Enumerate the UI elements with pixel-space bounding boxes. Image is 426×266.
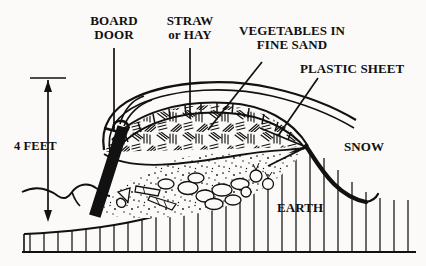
potato-5 [188, 173, 204, 183]
snow-drift-tail [366, 194, 378, 202]
dimension-arrow-down [44, 210, 52, 222]
beet-3 [241, 187, 251, 197]
potato-6 [205, 199, 223, 210]
leader-plastic-sheet [278, 78, 318, 136]
potato-7 [225, 195, 241, 205]
label-dimension-4-feet: 4 FEET [14, 140, 57, 153]
potato-8 [158, 179, 174, 189]
label-board-door: BOARD DOOR [74, 14, 154, 42]
label-plastic-sheet: PLASTIC SHEET [300, 62, 404, 76]
fine-sand-bed [100, 148, 305, 218]
label-snow: SNOW [344, 140, 384, 154]
snow-drift-left-tick [72, 192, 80, 206]
label-earth: EARTH [277, 201, 323, 215]
beet-1 [250, 170, 262, 182]
potato-3 [212, 184, 232, 196]
diagram-canvas: BOARD DOOR STRAW or HAY VEGETABLES IN FI… [0, 0, 426, 266]
onion-1 [117, 198, 126, 207]
label-vegetables-in-fine-sand: VEGETABLES IN FINE SAND [228, 24, 356, 52]
snow-drift-line [306, 146, 366, 202]
dimension-arrow-up [44, 80, 52, 92]
beet-2 [263, 179, 274, 190]
label-straw-or-hay: STRAW or HAY [152, 14, 228, 42]
